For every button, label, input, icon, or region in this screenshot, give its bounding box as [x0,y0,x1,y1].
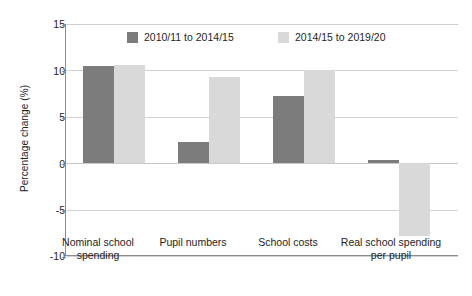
x-tick-line: per pupil [333,249,449,262]
bar-pupil-2010-2015[interactable] [178,142,209,163]
bar-costs-2014-2020[interactable] [304,70,335,164]
plot-area: 2010/11 to 2014/15 2014/15 to 2019/20 [65,24,458,256]
y-tick-mark [62,118,66,119]
x-tick-line: Pupil numbers [147,236,239,249]
bar-group-real-spending-per-pupil [368,24,430,255]
x-tick-line: spending [52,249,144,262]
bar-realpp-2010-2015[interactable] [368,160,399,164]
y-tick-mark [62,25,66,26]
x-tick-label-school-costs: School costs [242,236,334,249]
x-tick-line: Real school spending [333,236,449,249]
chart-figure: Percentage change (%) 15 10 5 0 -5 -10 2… [0,0,472,296]
y-tick-label: 10 [25,65,65,77]
x-tick-label-nominal-school-spending: Nominal school spending [52,236,144,261]
bar-group-pupil-numbers [178,24,240,255]
y-tick-mark [62,211,66,212]
y-tick-mark [62,164,66,165]
y-tick-label: 5 [25,111,65,123]
bar-nominal-2010-2015[interactable] [83,66,114,163]
y-tick-label: -5 [25,204,65,216]
bar-costs-2010-2015[interactable] [273,96,304,163]
bar-nominal-2014-2020[interactable] [114,65,145,163]
bar-group-nominal-school-spending [83,24,145,255]
bar-pupil-2014-2020[interactable] [209,77,240,163]
x-tick-line: Nominal school [52,236,144,249]
x-tick-label-pupil-numbers: Pupil numbers [147,236,239,249]
bar-group-school-costs [273,24,335,255]
y-tick-label: 15 [25,18,65,30]
y-tick-label: 0 [25,158,65,170]
x-tick-line: School costs [242,236,334,249]
bar-realpp-2014-2020[interactable] [399,163,430,236]
y-tick-mark [62,71,66,72]
x-tick-label-real-school-spending-per-pupil: Real school spending per pupil [333,236,449,261]
